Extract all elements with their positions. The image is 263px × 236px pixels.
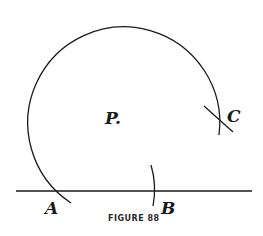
arc-mark-b (151, 165, 155, 206)
large-circle-arc (28, 27, 220, 203)
figure-88-diagram: P. A B C FIGURE 88 (0, 0, 263, 236)
label-p: P. (104, 108, 121, 128)
label-b: B (160, 198, 175, 218)
figure-caption: FIGURE 88 (108, 214, 160, 223)
label-c: C (227, 106, 241, 126)
label-a: A (43, 198, 58, 218)
